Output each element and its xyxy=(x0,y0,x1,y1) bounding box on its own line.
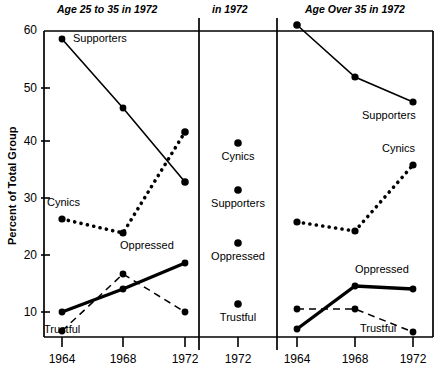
right-panel-series-supporters: Supporters xyxy=(293,21,416,121)
supporters-label-left: Supporters xyxy=(73,32,127,44)
supporters-point-left-1968 xyxy=(120,105,127,112)
supporters-point-right-1972 xyxy=(409,98,416,105)
oppressed-point-middle xyxy=(234,239,242,247)
y-tick-label-50: 50 xyxy=(24,81,38,95)
y-axis-title: Percent of Total Group xyxy=(6,126,18,245)
oppressed-label-left: Oppressed xyxy=(120,239,174,251)
x-tick-label-right-1964: 1964 xyxy=(284,352,311,366)
right-panel-series-trustful: Trustful xyxy=(294,306,417,336)
y-tick-label-10: 10 xyxy=(24,305,38,319)
left-panel-series-supporters: Supporters xyxy=(59,32,189,186)
cynics-label-middle: Cynics xyxy=(221,150,255,162)
x-axis-ticks xyxy=(62,337,413,347)
cynics-line-right xyxy=(297,165,413,231)
left-panel-series-trustful: Trustful xyxy=(44,271,188,335)
panel-title-left: Age 25 to 35 in 1972 xyxy=(56,3,158,15)
x-tick-label-left-1968: 1968 xyxy=(110,352,137,366)
x-tick-label-right-1972: 1972 xyxy=(400,352,427,366)
y-tick-label-60: 60 xyxy=(24,23,38,37)
trustful-line-left xyxy=(62,274,185,331)
supporters-point-left-1972 xyxy=(181,178,189,186)
oppressed-point-right-1968 xyxy=(352,283,359,290)
left-panel-series-cynics: Cynics xyxy=(47,128,189,236)
supporters-label-middle: Supporters xyxy=(211,197,265,209)
oppressed-point-left-1968 xyxy=(120,286,127,293)
y-tick-label-40: 40 xyxy=(24,134,38,148)
x-tick-label-left-1972: 1972 xyxy=(172,352,199,366)
trustful-label-left: Trustful xyxy=(44,323,80,335)
x-tick-label-left-1964: 1964 xyxy=(49,352,76,366)
trustful-point-middle xyxy=(234,300,242,308)
trustful-label-right: Trustful xyxy=(360,322,396,334)
trustful-point-right-1968 xyxy=(352,306,359,313)
oppressed-point-left-1972 xyxy=(182,260,189,267)
supporters-point-right-1964 xyxy=(293,21,301,29)
x-tick-label-right-1968: 1968 xyxy=(342,352,369,366)
oppressed-label-middle: Oppressed xyxy=(211,250,265,262)
supporters-point-left-1964 xyxy=(59,36,66,43)
panel-title-middle: in 1972 xyxy=(212,3,248,15)
y-tick-label-20: 20 xyxy=(24,248,38,262)
oppressed-point-right-1972 xyxy=(410,286,417,293)
panel-title-right: Age Over 35 in 1972 xyxy=(304,3,405,15)
supporters-line-right xyxy=(297,25,413,102)
cynics-point-middle xyxy=(234,139,242,147)
supporters-point-right-1968 xyxy=(351,73,358,80)
right-panel-series-oppressed: Oppressed xyxy=(294,263,417,332)
supporters-label-right: Supporters xyxy=(362,109,416,121)
trustful-point-right-1972 xyxy=(410,329,417,336)
cynics-point-left-1964 xyxy=(58,215,65,222)
oppressed-label-right: Oppressed xyxy=(355,263,409,275)
x-tick-label-middle-1972: 1972 xyxy=(225,352,252,366)
supporters-point-middle xyxy=(234,186,242,194)
cynics-line-left xyxy=(62,132,185,233)
three-panel-line-chart: Age 25 to 35 in 1972 in 1972 Age Over 35… xyxy=(0,0,435,372)
cynics-point-right-1972 xyxy=(409,161,416,168)
trustful-label-middle: Trustful xyxy=(220,311,256,323)
cynics-point-right-1964 xyxy=(293,218,300,225)
oppressed-point-right-1964 xyxy=(294,326,301,333)
y-tick-label-30: 30 xyxy=(24,191,38,205)
cynics-label-right: Cynics xyxy=(382,142,416,154)
trustful-point-left-1972 xyxy=(182,309,189,316)
middle-panel-points: Cynics Supporters Oppressed Trustful xyxy=(211,139,265,323)
cynics-point-left-1968 xyxy=(119,229,126,236)
right-panel-series-cynics: Cynics xyxy=(293,142,416,235)
oppressed-point-left-1964 xyxy=(59,309,66,316)
cynics-point-left-1972 xyxy=(181,128,189,136)
figure-container: Age 25 to 35 in 1972 in 1972 Age Over 35… xyxy=(0,0,435,372)
trustful-point-left-1968 xyxy=(120,271,127,278)
cynics-point-right-1968 xyxy=(351,227,358,234)
cynics-label-left: Cynics xyxy=(47,196,81,208)
trustful-point-right-1964 xyxy=(294,306,301,313)
